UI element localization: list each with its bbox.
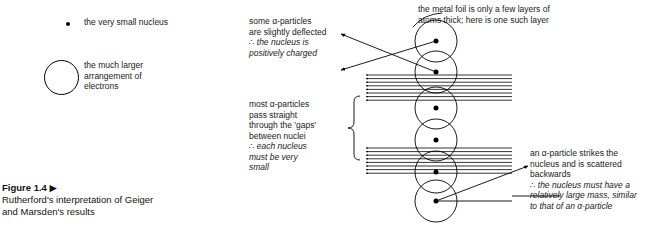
gaps-brace xyxy=(348,96,360,160)
atom-nucleus xyxy=(434,138,439,143)
rutherford-diagram xyxy=(0,0,662,227)
atom-nucleus xyxy=(434,106,439,111)
atom-column xyxy=(415,20,457,222)
deflected-particle-arrows xyxy=(341,34,436,72)
atom-nucleus xyxy=(434,170,439,175)
